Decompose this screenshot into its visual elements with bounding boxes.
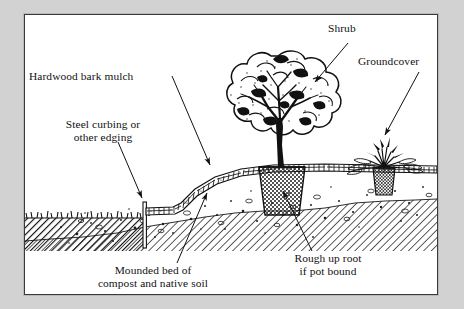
label-groundcover: Groundcover [358, 55, 419, 68]
shrub-illustration [227, 51, 341, 167]
label-steel-curbing-line1: Steel curbing or [43, 118, 163, 131]
label-hardwood-bark-mulch: Hardwood bark mulch [29, 70, 133, 83]
diagram-stage: Hardwood bark mulch Steel curbing or oth… [0, 0, 464, 309]
arrow-hardwood-mulch [172, 76, 210, 165]
label-rough-up-root-line1: Rough up root [271, 252, 385, 265]
arrow-steel-curbing [118, 142, 142, 198]
label-rough-up-root-line2: if pot bound [271, 265, 385, 278]
arrow-shrub [315, 43, 348, 82]
diagram-frame: Hardwood bark mulch Steel curbing or oth… [24, 14, 438, 295]
label-mounded-bed-line2: compost and native soil [61, 277, 245, 290]
shrub-root-ball [259, 167, 305, 215]
label-shrub: Shrub [328, 22, 356, 35]
groundcover-root-ball [373, 168, 395, 195]
label-steel-curbing-line2: other edging [43, 131, 163, 144]
label-mounded-bed-line1: Mounded bed of [73, 264, 233, 277]
arrow-groundcover [385, 72, 419, 135]
turf-block [25, 211, 145, 254]
